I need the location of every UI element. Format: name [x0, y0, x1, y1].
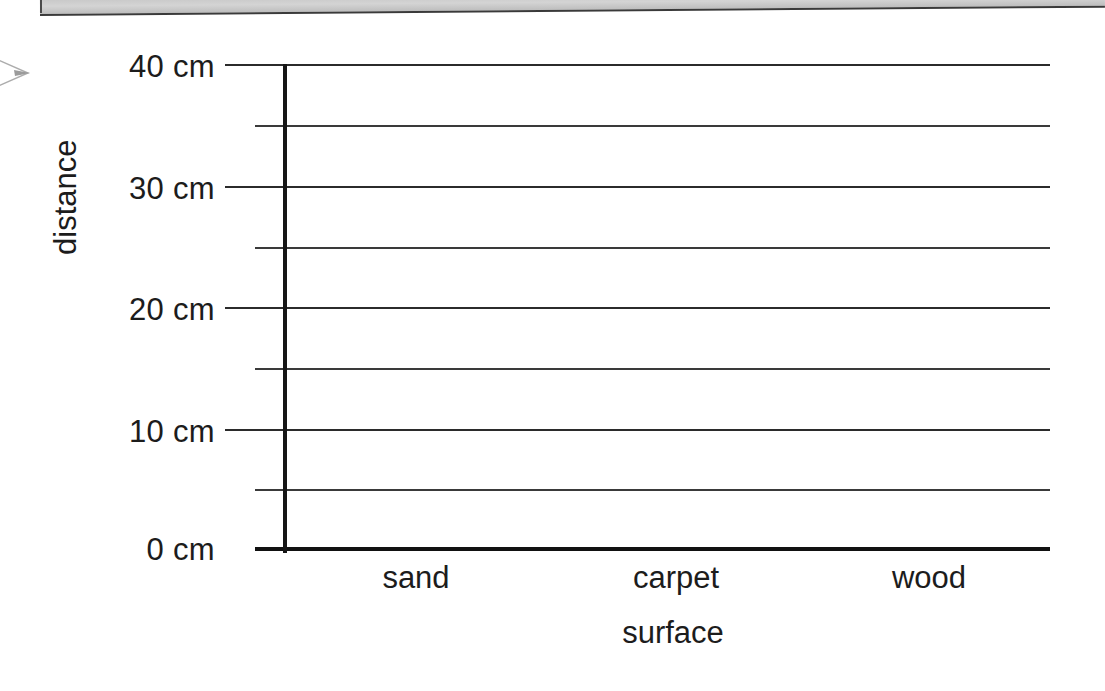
y-tick-label-40: 40 cm [35, 51, 215, 82]
x-tick-label-wood: wood [892, 560, 966, 596]
y-tick-label-10: 10 cm [35, 416, 215, 447]
plot-area[interactable] [286, 64, 1050, 551]
bar-chart: 40 cm 30 cm 20 cm 10 cm 0 cm distance sa… [0, 0, 1105, 691]
y-axis-title: distance [48, 140, 84, 255]
x-tick-label-carpet: carpet [633, 560, 719, 596]
y-tick-label-0: 0 cm [35, 534, 215, 565]
worksheet-page: 40 cm 30 cm 20 cm 10 cm 0 cm distance sa… [0, 0, 1105, 691]
x-tick-label-sand: sand [382, 560, 449, 596]
y-tick-label-20: 20 cm [35, 294, 215, 325]
x-axis-title: surface [622, 615, 724, 651]
